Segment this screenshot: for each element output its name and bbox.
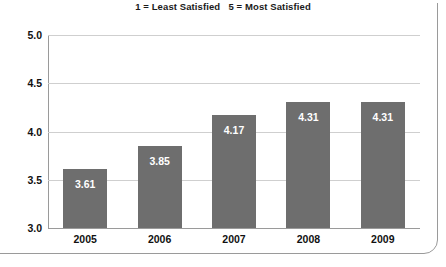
y-axis-tick-label: 3.0 [2,222,42,234]
bar: 4.31 [361,102,405,228]
x-axis-category-label: 2005 [63,233,107,245]
y-axis-tick-label: 4.5 [2,77,42,89]
gridline [48,35,420,36]
bar-value-label: 3.61 [63,178,107,190]
x-axis-category-label: 2008 [286,233,330,245]
y-axis-tick-label: 5.0 [2,29,42,41]
bar-value-label: 4.31 [286,111,330,123]
bar-value-label: 4.17 [212,124,256,136]
bar: 3.85 [138,146,182,228]
bar: 3.61 [63,169,107,228]
x-axis-category-label: 2007 [212,233,256,245]
x-axis-category-label: 2009 [361,233,405,245]
gridline [48,83,420,84]
y-axis-tick-label: 3.5 [2,174,42,186]
bar-value-label: 3.85 [138,155,182,167]
chart-title: 1 = Least Satisfied 5 = Most Satisfied [0,1,446,12]
plot-area: 3.613.854.174.314.31 [48,35,420,228]
bar: 4.31 [286,102,330,228]
x-axis-category-label: 2006 [138,233,182,245]
bar: 4.17 [212,115,256,228]
chart-page: 1 = Least Satisfied 5 = Most Satisfied 3… [0,0,446,267]
gridline [48,228,420,229]
bar-value-label: 4.31 [361,111,405,123]
y-axis-tick-label: 4.0 [2,126,42,138]
